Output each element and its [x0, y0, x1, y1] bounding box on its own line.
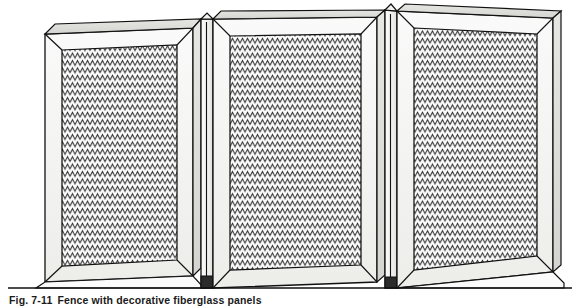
frame-right-return-right — [553, 11, 561, 272]
fence-section-center — [213, 10, 385, 288]
fence-drawing-svg — [0, 0, 580, 292]
figure-caption: Fig. 7-11Fence with decorative fiberglas… — [9, 294, 569, 307]
post-left-cap — [201, 13, 213, 19]
fence-drawing — [0, 0, 580, 292]
figure-caption-text: Fence with decorative fiberglass panels — [57, 294, 261, 306]
fence-post-right — [385, 4, 397, 288]
fence-section-right — [397, 4, 564, 288]
figure-container: Fig. 7-11Fence with decorative fiberglas… — [0, 0, 580, 308]
panel-right — [414, 28, 537, 270]
fence-post-left — [201, 13, 213, 288]
panel-center — [230, 34, 361, 270]
post-right-cap — [385, 4, 397, 11]
post-left-foot — [201, 276, 213, 288]
panel-left — [62, 45, 177, 266]
post-right-foot — [385, 277, 397, 288]
figure-caption-number: Fig. 7-11 — [9, 294, 52, 306]
frame-right-return-center — [377, 10, 385, 282]
frame-top-cap-center — [213, 10, 385, 19]
frame-right-return-left — [193, 19, 201, 276]
fence-section-left — [36, 19, 204, 288]
